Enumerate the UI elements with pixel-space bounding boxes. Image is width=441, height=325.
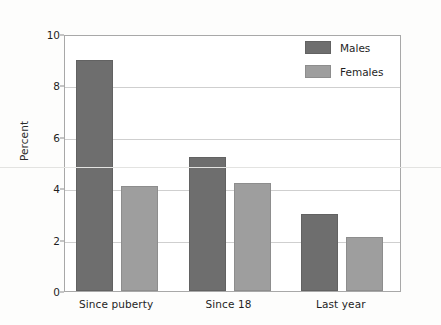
y-axis-title: Percent [18, 106, 30, 176]
y-tick-label-10: 10 [34, 29, 60, 41]
x-tick-label-last-year: Last year [316, 298, 366, 310]
bar-females-since-puberty [121, 186, 158, 291]
y-tick-label-4: 4 [34, 183, 60, 195]
bar-females-last-year [346, 237, 383, 291]
gridline-6 [65, 139, 400, 140]
y-axis-ticks: 0246810 [30, 35, 60, 292]
gridline-4 [65, 190, 400, 191]
bar-males-since-puberty [76, 60, 113, 291]
bar-females-since-18 [234, 183, 271, 291]
bar-males-since-18 [189, 157, 226, 291]
legend-label-males: Males [340, 42, 370, 54]
x-tick-label-since-puberty: Since puberty [79, 298, 153, 310]
legend-swatch-females [305, 65, 331, 78]
y-tick-label-0: 0 [34, 286, 60, 298]
bar-males-last-year [301, 214, 338, 291]
y-tick-label-6: 6 [34, 132, 60, 144]
legend-label-females: Females [340, 66, 383, 78]
bar-chart-figure: Percent 0246810 MalesFemales Since puber… [0, 0, 441, 325]
chart-legend: MalesFemales [305, 40, 383, 88]
legend-item-males: Males [305, 40, 383, 55]
x-tick-label-since-18: Since 18 [206, 298, 252, 310]
y-tick-label-2: 2 [34, 235, 60, 247]
legend-swatch-males [305, 41, 331, 54]
legend-item-females: Females [305, 64, 383, 79]
y-tick-label-8: 8 [34, 80, 60, 92]
